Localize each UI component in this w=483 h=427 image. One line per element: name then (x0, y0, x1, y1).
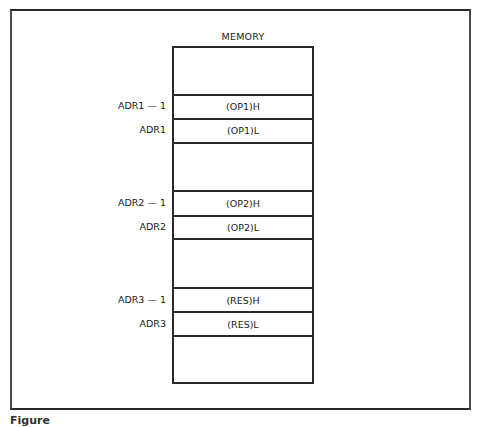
cell-divider (172, 335, 314, 337)
cell-divider (172, 118, 314, 120)
address-label-adr2-minus-1: ADR2 — 1 (118, 197, 166, 209)
cell-divider (172, 94, 314, 96)
memory-cell-op1-high: (OP1)H (172, 101, 314, 113)
address-label-adr3-minus-1: ADR3 — 1 (118, 294, 166, 306)
memory-cell-res-low: (RES)L (172, 319, 314, 331)
memory-cell-op2-high: (OP2)H (172, 198, 314, 210)
address-label-adr2: ADR2 (140, 221, 166, 233)
address-label-adr3: ADR3 (140, 318, 166, 330)
address-label-adr1: ADR1 (140, 124, 166, 136)
cell-divider (172, 238, 314, 240)
cell-divider (172, 287, 314, 289)
address-label-adr1-minus-1: ADR1 — 1 (118, 100, 166, 112)
memory-cell-op2-low: (OP2)L (172, 222, 314, 234)
cell-divider (172, 215, 314, 217)
memory-cell-op1-low: (OP1)L (172, 125, 314, 137)
cell-divider (172, 311, 314, 313)
memory-title: MEMORY (172, 31, 314, 42)
cell-divider (172, 142, 314, 144)
cell-divider (172, 190, 314, 192)
memory-cell-res-high: (RES)H (172, 295, 314, 307)
figure-caption: Figure (10, 414, 50, 427)
